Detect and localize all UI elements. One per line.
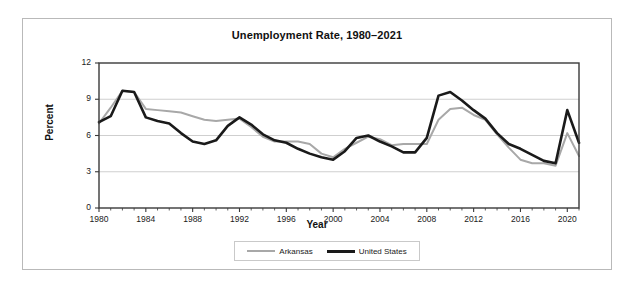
gridlines [99,99,579,172]
legend-label-united-states: United States [359,247,407,256]
series-lines [99,91,579,166]
chart-figure: Unemployment Rate, 1980–2021 Percent Yea… [22,18,612,270]
axis-tick-marks [95,63,579,212]
legend-item-united-states[interactable]: United States [327,247,407,256]
legend-label-arkansas: Arkansas [279,247,312,256]
legend-swatch-united-states-icon [327,250,355,253]
plot-area [23,19,613,271]
chart-legend: Arkansas United States [234,241,420,261]
legend-swatch-arkansas-icon [247,250,275,252]
legend-item-arkansas[interactable]: Arkansas [247,247,312,256]
